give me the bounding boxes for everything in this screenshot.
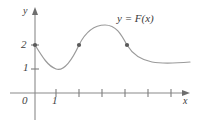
curve-F xyxy=(35,25,190,69)
plot-canvas xyxy=(0,0,199,132)
y-tick-label-2: 2 xyxy=(21,39,27,50)
y-axis-label: y xyxy=(23,6,27,16)
curve-equation-label: y = F(x) xyxy=(117,13,154,24)
marked-point-0 xyxy=(33,43,37,47)
y-tick-label-1: 1 xyxy=(23,62,29,73)
origin-label: 0 xyxy=(22,95,28,106)
figure-graph-of-F: y x 2 1 0 1 y = F(x) xyxy=(0,0,199,132)
x-axis-label: x xyxy=(183,96,187,106)
marked-point-2 xyxy=(125,43,129,47)
curve-marked-points xyxy=(33,43,129,47)
marked-point-1 xyxy=(77,43,81,47)
y-axis-arrowhead xyxy=(32,7,38,15)
x-tick-label-1: 1 xyxy=(52,95,58,106)
